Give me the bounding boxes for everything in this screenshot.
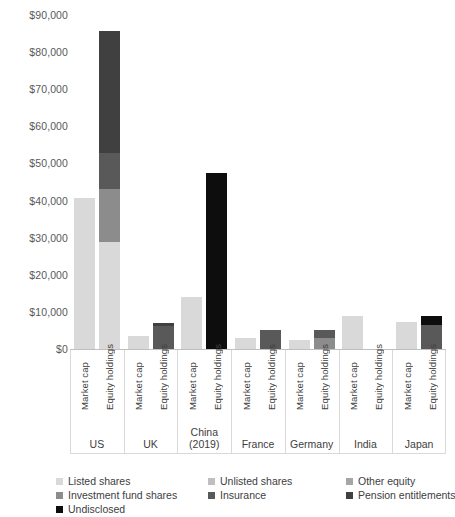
- category-label-line: France: [231, 438, 285, 450]
- legend-swatch-icon: [56, 492, 63, 499]
- category-label-line: Germany: [285, 438, 339, 450]
- bar-axis-label: Equity holdings: [104, 344, 115, 410]
- plot-area: [70, 15, 446, 349]
- bar-axis-label: Equity holdings: [158, 344, 169, 410]
- chart-legend: Listed sharesUnlisted sharesOther equity…: [56, 476, 448, 516]
- legend-item-insurance[interactable]: Insurance: [208, 490, 266, 501]
- legend-item-label: Pension entitlements: [358, 490, 455, 501]
- bar-segment-listed-shares: [342, 316, 363, 349]
- bar-axis-label: Market cap: [348, 362, 359, 410]
- category-label-line: (2019): [177, 438, 231, 450]
- bar-axis-label: Equity holdings: [212, 344, 223, 410]
- legend-item-listed-shares[interactable]: Listed shares: [56, 476, 130, 487]
- bar-us-market-cap: [74, 198, 95, 349]
- bar-us-equity-holdings: [99, 31, 120, 349]
- bar-segment-undisclosed: [421, 316, 442, 326]
- category-label-line: India: [339, 438, 393, 450]
- bar-axis-label: Market cap: [79, 362, 90, 410]
- legend-item-label: Investment fund shares: [68, 490, 177, 501]
- legend-item-unlisted-shares[interactable]: Unlisted shares: [208, 476, 292, 487]
- bar-axis-label: Market cap: [402, 362, 413, 410]
- bar-axis-label: Market cap: [241, 362, 252, 410]
- bar-japan-market-cap: [396, 322, 417, 349]
- y-axis-tick-label: $70,000: [4, 84, 68, 94]
- bar-axis-label: Equity holdings: [266, 344, 277, 410]
- category-label-line: UK: [124, 438, 178, 450]
- bar-germany-market-cap: [289, 340, 310, 349]
- bar-india-market-cap: [342, 316, 363, 349]
- y-axis-tick-label: $50,000: [4, 158, 68, 168]
- x-axis-category-label: Japan: [392, 438, 446, 450]
- legend-swatch-icon: [346, 492, 353, 499]
- bar-segment-listed-shares: [396, 322, 417, 349]
- legend-item-other-equity[interactable]: Other equity: [346, 476, 415, 487]
- bar-axis-label: Market cap: [294, 362, 305, 410]
- category-label-line: Japan: [392, 438, 446, 450]
- y-axis-tick-label: $40,000: [4, 196, 68, 206]
- x-axis-category-label: Germany: [285, 438, 339, 450]
- bar-segment-listed-shares: [181, 297, 202, 349]
- legend-item-label: Undisclosed: [68, 504, 125, 515]
- bar-axis-label: Equity holdings: [373, 344, 384, 410]
- x-axis-category-label: China(2019): [177, 426, 231, 450]
- legend-item-label: Other equity: [358, 476, 415, 487]
- legend-item-investment-fund-shares[interactable]: Investment fund shares: [56, 490, 177, 501]
- legend-swatch-icon: [56, 478, 63, 485]
- y-axis-tick-label: $80,000: [4, 47, 68, 57]
- y-axis-tick-label: $0: [4, 344, 68, 354]
- bar-segment-insurance: [99, 153, 120, 188]
- legend-item-label: Unlisted shares: [220, 476, 292, 487]
- bar-segment-undisclosed: [206, 173, 227, 349]
- bar-segment-pension-entitlements: [99, 31, 120, 153]
- bar-france-market-cap: [235, 338, 256, 350]
- bar-axis-label: Equity holdings: [427, 344, 438, 410]
- legend-swatch-icon: [56, 506, 63, 513]
- x-axis-category-label: India: [339, 438, 393, 450]
- legend-item-label: Insurance: [220, 490, 266, 501]
- y-axis-tick-label: $30,000: [4, 233, 68, 243]
- x-axis-band: Market capEquity holdingsUSMarket capEqu…: [70, 350, 446, 454]
- bar-china-2019-equity-holdings: [206, 173, 227, 349]
- bar-axis-label: Market cap: [187, 362, 198, 410]
- x-axis-bottom-rule: [70, 453, 446, 454]
- y-axis-tick-label: $20,000: [4, 270, 68, 280]
- bar-segment-listed-shares: [74, 198, 95, 349]
- legend-swatch-icon: [346, 478, 353, 485]
- bar-axis-label: Equity holdings: [319, 344, 330, 410]
- x-axis-category-label: UK: [124, 438, 178, 450]
- y-axis-tick-label: $60,000: [4, 121, 68, 131]
- category-label-line: US: [70, 438, 124, 450]
- y-axis-tick-label: $90,000: [4, 10, 68, 20]
- bar-segment-listed-shares: [99, 242, 120, 349]
- bar-china-2019-market-cap: [181, 297, 202, 349]
- bar-segment-investment-fund-shares: [99, 189, 120, 242]
- legend-swatch-icon: [208, 492, 215, 499]
- y-axis: $0$10,000$20,000$30,000$40,000$50,000$60…: [0, 0, 68, 360]
- bar-axis-label: Market cap: [133, 362, 144, 410]
- legend-item-label: Listed shares: [68, 476, 130, 487]
- x-axis-group-separator: [445, 350, 446, 454]
- category-label-line: China: [177, 426, 231, 438]
- bar-uk-market-cap: [128, 336, 149, 349]
- x-axis-category-label: US: [70, 438, 124, 450]
- bar-segment-listed-shares: [128, 336, 149, 349]
- y-axis-tick-label: $10,000: [4, 307, 68, 317]
- bar-segment-insurance: [314, 330, 335, 338]
- x-axis-category-label: France: [231, 438, 285, 450]
- bar-segment-listed-shares: [235, 338, 256, 350]
- bar-segment-listed-shares: [289, 340, 310, 349]
- legend-swatch-icon: [208, 478, 215, 485]
- legend-item-undisclosed[interactable]: Undisclosed: [56, 504, 125, 515]
- legend-item-pension-entitlements[interactable]: Pension entitlements: [346, 490, 455, 501]
